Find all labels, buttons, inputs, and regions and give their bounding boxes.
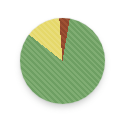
pie-chart [20, 18, 105, 104]
pie-chart-canvas [0, 0, 128, 122]
pie-texture-overlay [20, 18, 105, 104]
